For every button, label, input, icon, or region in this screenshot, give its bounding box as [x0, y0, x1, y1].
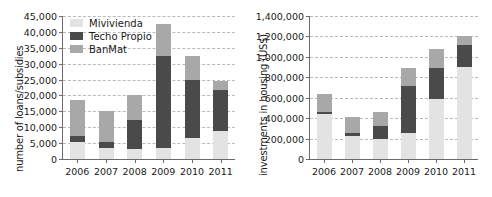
y-axis-tick-label: 45,000 — [24, 11, 57, 22]
x-axis-tick-label: 2007 — [94, 166, 118, 177]
x-axis-tick — [436, 159, 437, 163]
bar-segment-mivivienda — [185, 138, 200, 159]
legend-swatch-mivivienda — [70, 19, 83, 27]
y-axis-tick-label: 1,200,000 — [256, 31, 304, 42]
y-axis-tick — [59, 143, 63, 144]
y-axis-tick-label: 0 — [51, 154, 57, 165]
x-axis-tick-label: 2008 — [123, 166, 147, 177]
bar-segment-mivivienda — [373, 139, 388, 159]
y-axis-tick-label: 25,000 — [24, 74, 57, 85]
x-axis-tick — [163, 159, 164, 163]
y-axis-tick — [306, 16, 310, 17]
x-axis-tick — [464, 159, 465, 163]
bar-segment-techo-propio — [156, 56, 171, 147]
y-axis-tick — [59, 64, 63, 65]
bar-segment-mivivienda — [99, 148, 114, 159]
gridline — [310, 118, 478, 119]
bar-segment-mivivienda — [345, 136, 360, 159]
bar-2007 — [99, 111, 114, 159]
bar-segment-techo-propio — [185, 80, 200, 139]
y-axis-tick — [59, 48, 63, 49]
y-axis-tick — [59, 127, 63, 128]
y-axis-tick-label: 200,000 — [265, 133, 304, 144]
y-axis-tick-label: 0 — [298, 154, 304, 165]
bar-segment-banmat — [401, 68, 416, 86]
legend-item-banmat: BanMat — [70, 43, 152, 55]
bar-segment-mivivienda — [457, 67, 472, 159]
y-axis-tick — [306, 57, 310, 58]
gridline — [310, 77, 478, 78]
x-axis-tick — [77, 159, 78, 163]
x-axis-tick-label: 2010 — [424, 166, 448, 177]
bar-segment-mivivienda — [127, 149, 142, 159]
y-axis-tick-label: 5,000 — [30, 138, 57, 149]
bar-segment-banmat — [127, 95, 142, 119]
bar-segment-banmat — [345, 117, 360, 134]
plot-area-right: 0200,000400,000600,000800,0001,000,0001,… — [309, 16, 478, 160]
y-axis-tick-label: 15,000 — [24, 106, 57, 117]
bar-segment-banmat — [99, 111, 114, 142]
y-axis-tick — [59, 159, 63, 160]
x-axis-tick — [135, 159, 136, 163]
bar-segment-banmat — [70, 100, 85, 137]
bar-segment-banmat — [429, 49, 444, 68]
y-axis-tick — [59, 80, 63, 81]
legend-item-mivivienda: Mivivienda — [70, 17, 152, 29]
bar-segment-mivivienda — [317, 114, 332, 159]
bar-segment-techo-propio — [213, 90, 228, 131]
x-axis-tick — [192, 159, 193, 163]
figure-two-stacked-bar-charts: number of loans/subsidies 05,00010,00015… — [0, 0, 492, 197]
x-axis-tick-label: 2010 — [180, 166, 204, 177]
chart-panel-investments-housing: investments in housing (US$) 0200,000400… — [246, 0, 492, 197]
gridline — [310, 57, 478, 58]
bar-segment-banmat — [373, 112, 388, 126]
x-axis-tick — [380, 159, 381, 163]
bar-2007 — [345, 117, 360, 159]
bar-2011 — [457, 36, 472, 159]
x-axis-tick — [352, 159, 353, 163]
gridline — [310, 36, 478, 37]
bar-segment-mivivienda — [401, 133, 416, 159]
bar-segment-mivivienda — [429, 99, 444, 159]
bar-segment-mivivienda — [70, 142, 85, 159]
y-axis-tick-label: 40,000 — [24, 26, 57, 37]
y-axis-tick — [306, 36, 310, 37]
x-axis-tick — [221, 159, 222, 163]
y-axis-tick — [306, 159, 310, 160]
gridline — [63, 111, 235, 112]
legend-item-techo-propio: Techo Propio — [70, 30, 152, 42]
bar-segment-banmat — [185, 56, 200, 80]
bar-segment-techo-propio — [401, 86, 416, 133]
legend-label-mivivienda: Mivivienda — [89, 18, 143, 29]
gridline — [63, 95, 235, 96]
gridline — [310, 139, 478, 140]
x-axis-tick-label: 2006 — [312, 166, 336, 177]
x-axis-tick-label: 2011 — [452, 166, 476, 177]
bar-segment-techo-propio — [127, 120, 142, 150]
gridline — [63, 80, 235, 81]
bar-segment-mivivienda — [156, 148, 171, 159]
y-axis-tick-label: 20,000 — [24, 90, 57, 101]
y-axis-tick-label: 1,400,000 — [256, 11, 304, 22]
chart-legend: Mivivienda Techo Propio BanMat — [70, 17, 152, 56]
x-axis-tick — [106, 159, 107, 163]
y-axis-tick — [306, 139, 310, 140]
bar-segment-mivivienda — [213, 131, 228, 159]
y-axis-tick-label: 400,000 — [265, 113, 304, 124]
gridline — [63, 127, 235, 128]
bar-segment-banmat — [457, 36, 472, 45]
bar-2011 — [213, 81, 228, 159]
y-axis-tick-label: 1,000,000 — [256, 51, 304, 62]
gridline — [63, 143, 235, 144]
bar-2006 — [317, 94, 332, 159]
y-axis-tick-label: 600,000 — [265, 92, 304, 103]
gridline — [310, 98, 478, 99]
legend-label-banmat: BanMat — [89, 44, 127, 55]
legend-swatch-banmat — [70, 45, 83, 53]
bar-2010 — [185, 56, 200, 159]
y-axis-tick — [59, 111, 63, 112]
y-axis-tick-label: 35,000 — [24, 42, 57, 53]
x-axis-tick-label: 2009 — [151, 166, 175, 177]
y-axis-tick — [306, 118, 310, 119]
bar-segment-techo-propio — [457, 45, 472, 67]
